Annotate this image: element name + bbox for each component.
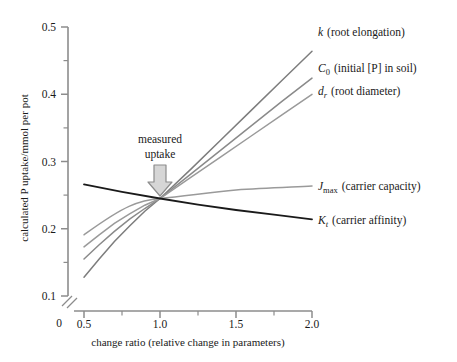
legend-kt-subscript: t <box>326 219 329 229</box>
legend-jmax-text: (carrier capacity) <box>342 180 421 193</box>
x-tick-0.5: 0.5 <box>77 318 92 330</box>
y-tick-0.1: 0.1 <box>42 290 57 302</box>
legend-jmax-subscript: max <box>323 185 338 195</box>
axis-break-icon <box>62 296 77 308</box>
sensitivity-chart: 0.5 0.4 0.3 0.2 0.1 0 0.5 1.0 1.5 2.0 ch… <box>0 0 457 362</box>
y-tick-0.3: 0.3 <box>42 156 57 168</box>
legend-kt-text: (carrier affinity) <box>332 214 406 227</box>
curve-kt <box>84 184 312 219</box>
y-tick-labels: 0.5 0.4 0.3 0.2 0.1 <box>42 21 57 302</box>
curve-dr <box>84 94 312 247</box>
curve-k <box>84 51 312 277</box>
legend-dr-text: (root diameter) <box>331 85 400 98</box>
legend-c0: C0(initial [P] in soil) <box>318 62 417 77</box>
y-tick-0.5: 0.5 <box>42 21 57 33</box>
legend-c0-text: (initial [P] in soil) <box>334 62 417 75</box>
legend-jmax: Jmax(carrier capacity) <box>318 180 421 195</box>
measured-uptake-line1: measured <box>138 133 182 145</box>
curve-c0 <box>84 78 312 259</box>
legend-kt: Kt(carrier affinity) <box>317 214 406 229</box>
y-axis-title: calculated P uptake/mmol per pot <box>18 94 30 241</box>
y-major-ticks <box>61 27 68 296</box>
legend-k-text: (root elongation) <box>327 26 405 39</box>
legend-dr-subscript: r <box>324 90 328 100</box>
x-tick-1.5: 1.5 <box>229 318 244 330</box>
legend-dr: dr(root diameter) <box>318 85 401 100</box>
legend-c0-subscript: 0 <box>326 67 330 77</box>
legend-group: k(root elongation) C0(initial [P] in soi… <box>317 26 421 229</box>
x-tick-1.0: 1.0 <box>153 318 168 330</box>
data-series-group <box>84 51 312 277</box>
measured-uptake-line2: uptake <box>145 148 176 161</box>
y-tick-0.2: 0.2 <box>42 223 57 235</box>
legend-k: k(root elongation) <box>318 26 405 39</box>
y-tick-0.4: 0.4 <box>42 88 57 100</box>
x-tick-2.0: 2.0 <box>305 318 320 330</box>
x-axis-title: change ratio (relative change in paramet… <box>91 336 285 349</box>
origin-tick-label: 0 <box>56 317 62 329</box>
legend-k-symbol: k <box>318 26 324 38</box>
x-tick-labels: 0.5 1.0 1.5 2.0 <box>77 318 320 330</box>
figure-container: 0.5 0.4 0.3 0.2 0.1 0 0.5 1.0 1.5 2.0 ch… <box>0 0 457 362</box>
